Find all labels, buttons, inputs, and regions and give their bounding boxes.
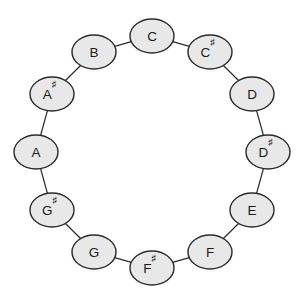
note-node-C[interactable]: C	[130, 19, 174, 53]
edge-A-to-Asharp	[41, 111, 48, 136]
note-node-Asharp[interactable]: A♯	[30, 77, 74, 111]
note-node-Fsharp[interactable]: F♯	[130, 251, 174, 285]
note-label-A: A	[31, 144, 40, 159]
edge-E-to-F	[223, 223, 238, 238]
edge-Gsharp-to-A	[41, 169, 48, 194]
note-label-C: C	[147, 28, 157, 43]
edge-G-to-Gsharp	[65, 223, 80, 238]
edge-B-to-C	[115, 42, 132, 47]
note-node-Gsharp[interactable]: G♯	[30, 193, 74, 227]
note-node-A[interactable]: A	[14, 135, 58, 169]
edge-C-to-Csharp	[173, 42, 190, 47]
note-node-G[interactable]: G	[72, 235, 116, 269]
edge-Csharp-to-D	[223, 65, 238, 80]
nodes-layer: CC♯DD♯EFF♯GG♯AA♯B	[14, 19, 290, 285]
chromatic-circle-diagram: CC♯DD♯EFF♯GG♯AA♯B	[0, 0, 300, 298]
note-node-F[interactable]: F	[188, 235, 232, 269]
edge-F-to-Fsharp	[173, 258, 190, 263]
note-label-F: F	[206, 244, 214, 259]
edge-Asharp-to-B	[65, 65, 80, 80]
edge-Dsharp-to-E	[257, 169, 264, 194]
edge-Fsharp-to-G	[115, 258, 132, 263]
note-label-G: G	[89, 244, 100, 259]
note-label-B: B	[89, 44, 98, 59]
note-node-Csharp[interactable]: C♯	[188, 35, 232, 69]
note-node-Dsharp[interactable]: D♯	[246, 135, 290, 169]
chromatic-circle-svg: CC♯DD♯EFF♯GG♯AA♯B	[0, 0, 300, 298]
note-label-D: D	[247, 86, 257, 101]
note-node-E[interactable]: E	[230, 193, 274, 227]
note-node-D[interactable]: D	[230, 77, 274, 111]
edge-D-to-Dsharp	[257, 111, 264, 136]
edges-layer	[41, 42, 264, 263]
note-node-B[interactable]: B	[72, 35, 116, 69]
note-label-E: E	[247, 202, 256, 217]
